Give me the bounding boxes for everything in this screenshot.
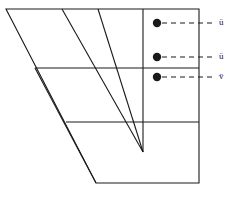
figure-canvas: ü ü v̈ [0,0,238,198]
figure-drawing [0,0,238,198]
point-marker-upper [153,19,161,27]
body-outline [6,9,199,183]
annotation-label-lower: v̈ [219,72,224,81]
annotation-label-upper: ü [219,18,224,27]
point-marker-middle [153,53,161,61]
converging-line-2 [98,9,143,152]
annotation-label-middle: ü [219,52,224,61]
converging-line-1 [62,9,143,152]
left-inner-edge [35,68,96,183]
point-marker-lower [153,73,161,81]
